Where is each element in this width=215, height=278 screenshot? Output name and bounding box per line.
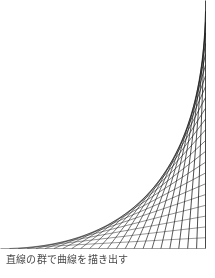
line-envelope-figure (0, 0, 215, 278)
figure-root: 直線の群で曲線を描き出す (0, 0, 215, 278)
figure-caption: 直線の群で曲線を描き出す (6, 253, 128, 266)
